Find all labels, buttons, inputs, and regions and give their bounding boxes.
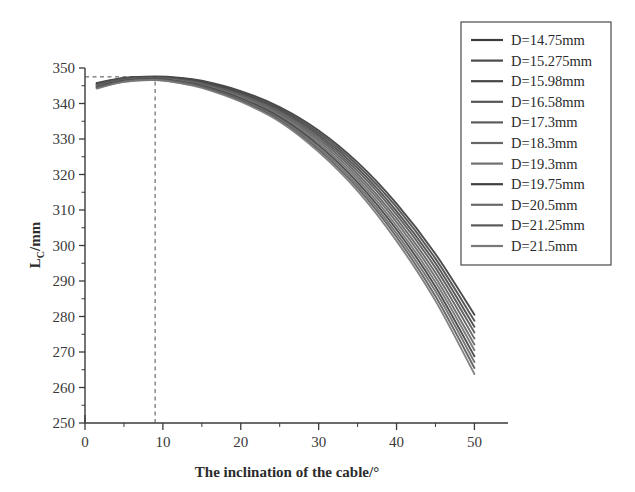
- x-tick-label: 50: [467, 434, 482, 450]
- legend-item-label[interactable]: D=20.5mm: [511, 197, 578, 213]
- legend-item-label[interactable]: D=21.5mm: [511, 238, 578, 254]
- y-tick-label: 300: [53, 238, 76, 254]
- y-tick-label: 310: [53, 202, 76, 218]
- legend-item-label[interactable]: D=15.275mm: [511, 53, 593, 69]
- y-tick-label: 350: [53, 60, 76, 76]
- legend-item-label[interactable]: D=15.98mm: [511, 73, 586, 89]
- legend-item-label[interactable]: D=14.75mm: [511, 32, 586, 48]
- x-tick-label: 30: [311, 434, 326, 450]
- y-axis-title-subscript: C: [35, 251, 46, 258]
- y-axis-title-unit: /mm: [27, 221, 43, 252]
- legend-item-label[interactable]: D=18.3mm: [511, 135, 578, 151]
- x-tick-label: 40: [389, 434, 404, 450]
- chart-figure: 250260270280290300310320330340350 010203…: [0, 0, 635, 492]
- legend-item-label[interactable]: D=19.3mm: [511, 156, 578, 172]
- y-tick-label: 340: [53, 96, 76, 112]
- y-tick-label: 260: [53, 380, 76, 396]
- x-tick-label: 20: [233, 434, 248, 450]
- y-tick-label: 280: [53, 309, 76, 325]
- x-axis-title: The inclination of the cable/°: [195, 464, 379, 480]
- x-tick-label: 10: [155, 434, 170, 450]
- legend-item-label[interactable]: D=21.25mm: [511, 217, 586, 233]
- y-tick-label: 250: [53, 415, 76, 431]
- y-tick-label: 270: [53, 344, 76, 360]
- line-chart: 250260270280290300310320330340350 010203…: [0, 0, 635, 492]
- legend-item-label[interactable]: D=16.58mm: [511, 94, 586, 110]
- x-tick-label: 0: [81, 434, 89, 450]
- legend-item-label[interactable]: D=17.3mm: [511, 114, 578, 130]
- y-tick-label: 330: [53, 131, 76, 147]
- legend-item-label[interactable]: D=19.75mm: [511, 176, 586, 192]
- y-tick-label: 320: [53, 167, 76, 183]
- y-tick-label: 290: [53, 273, 76, 289]
- y-axis-title-base: L: [27, 258, 43, 268]
- legend[interactable]: D=14.75mmD=15.275mmD=15.98mmD=16.58mmD=1…: [461, 22, 611, 265]
